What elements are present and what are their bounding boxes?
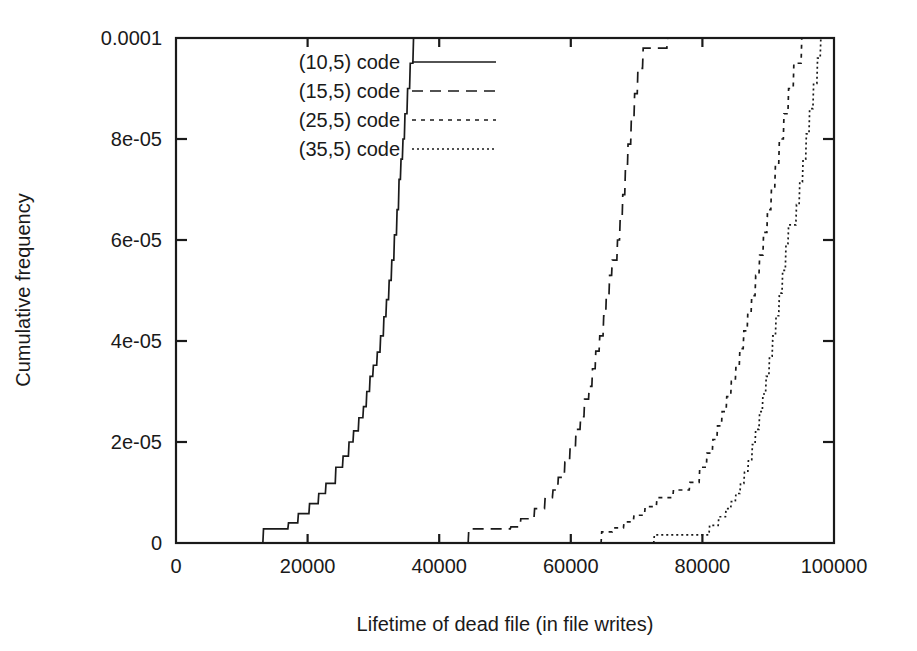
legend-label-4: (35,5) code (299, 138, 400, 160)
axes (176, 38, 834, 543)
x-tick-label: 20000 (280, 555, 336, 577)
chart-legend: (10,5) code(15,5) code(25,5) code(35,5) … (299, 51, 496, 160)
x-tick-label: 100000 (801, 555, 868, 577)
legend-label-3: (25,5) code (299, 109, 400, 131)
y-tick-label: 4e-05 (111, 330, 162, 352)
plot-frame (176, 38, 834, 543)
x-tick-label: 80000 (675, 555, 731, 577)
x-tick-label: 40000 (411, 555, 467, 577)
y-tick-label: 2e-05 (111, 431, 162, 453)
chart-figure: 02000040000600008000010000002e-054e-056e… (0, 0, 917, 651)
series-line-2 (468, 38, 667, 543)
y-axis-title: Cumulative frequency (12, 193, 34, 386)
y-tick-label: 6e-05 (111, 229, 162, 251)
line-chart: 02000040000600008000010000002e-054e-056e… (0, 0, 917, 651)
series-line-4 (654, 38, 821, 543)
y-tick-label: 8e-05 (111, 128, 162, 150)
y-tick-label: 0.0001 (101, 27, 162, 49)
y-tick-label: 0 (151, 532, 162, 554)
x-axis-title: Lifetime of dead file (in file writes) (357, 613, 654, 635)
tick-labels: 02000040000600008000010000002e-054e-056e… (101, 27, 868, 577)
series-line-3 (601, 38, 802, 543)
x-tick-label: 60000 (543, 555, 599, 577)
legend-label-2: (15,5) code (299, 80, 400, 102)
legend-label-1: (10,5) code (299, 51, 400, 73)
x-tick-label: 0 (170, 555, 181, 577)
